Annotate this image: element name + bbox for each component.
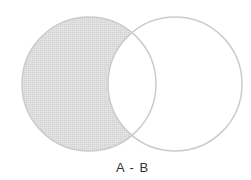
operation-label: A - B xyxy=(0,160,251,175)
venn-diagram xyxy=(0,0,251,180)
